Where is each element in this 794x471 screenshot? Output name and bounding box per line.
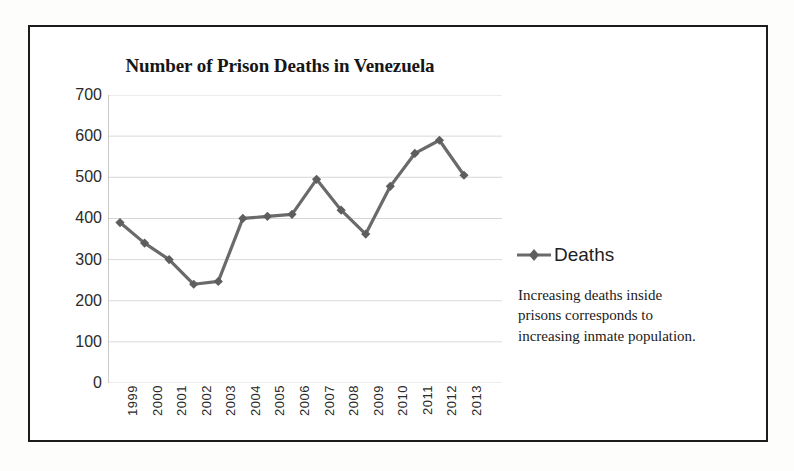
y-axis-label-500: 500 xyxy=(58,169,102,185)
annotation-line-3: increasing inmate population. xyxy=(518,326,750,346)
x-axis-label-2005: 2005 xyxy=(272,385,287,416)
y-axis-label-600: 600 xyxy=(58,128,102,144)
y-axis-label-400: 400 xyxy=(58,210,102,226)
y-axis-label-0: 0 xyxy=(58,375,102,391)
x-axis-label-2000: 2000 xyxy=(150,385,165,416)
x-axis-tick-labels: 1999200020012002200320042005200620072008… xyxy=(108,385,502,441)
x-axis-label-2004: 2004 xyxy=(248,385,263,416)
y-axis-tick-labels: 0100200300400500600700 xyxy=(52,95,102,383)
y-axis-label-200: 200 xyxy=(58,293,102,309)
chart-legend: Deaths xyxy=(516,245,614,264)
x-axis-label-2013: 2013 xyxy=(469,385,484,416)
data-point-2005 xyxy=(263,212,272,221)
x-axis-label-2007: 2007 xyxy=(322,385,337,416)
x-axis-label-2003: 2003 xyxy=(223,385,238,416)
x-axis-label-2011: 2011 xyxy=(420,385,435,415)
x-axis-label-1999: 1999 xyxy=(125,385,140,416)
x-axis-label-2012: 2012 xyxy=(444,385,459,416)
x-axis-label-2010: 2010 xyxy=(395,385,410,416)
x-axis-label-2009: 2009 xyxy=(371,385,386,416)
axis-tick-marks xyxy=(108,95,464,383)
y-axis-label-700: 700 xyxy=(58,87,102,103)
annotation-line-2: prisons corresponds to xyxy=(518,305,750,325)
line-chart-svg xyxy=(108,95,502,383)
legend-label-deaths: Deaths xyxy=(554,245,614,264)
x-axis-label-2006: 2006 xyxy=(297,385,312,416)
deaths-series-markers xyxy=(115,136,468,289)
annotation-line-1: Increasing deaths inside xyxy=(518,285,750,305)
x-axis-label-2001: 2001 xyxy=(174,385,189,416)
y-axis-label-300: 300 xyxy=(58,252,102,268)
gridlines xyxy=(108,95,502,383)
legend-diamond-marker-icon xyxy=(516,246,552,264)
chart-figure-frame: Number of Prison Deaths in Venezuela 010… xyxy=(28,25,768,442)
plot-area xyxy=(108,95,502,383)
x-axis-label-2002: 2002 xyxy=(199,385,214,416)
x-axis-label-2008: 2008 xyxy=(346,385,361,416)
chart-annotation: Increasing deaths inside prisons corresp… xyxy=(518,285,750,346)
y-axis-label-100: 100 xyxy=(58,334,102,350)
data-point-2004 xyxy=(238,214,247,223)
data-point-2003 xyxy=(214,277,223,286)
chart-title: Number of Prison Deaths in Venezuela xyxy=(30,55,530,77)
